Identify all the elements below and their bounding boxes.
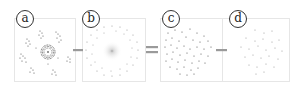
panel-a-clusters xyxy=(19,30,70,75)
panel-c-points xyxy=(164,28,211,75)
figure-points xyxy=(0,0,301,85)
minus-operator-ab xyxy=(73,49,83,51)
panel-c-label: c xyxy=(162,10,180,28)
minus-operator-cd xyxy=(216,49,227,51)
equals-operator-bc xyxy=(146,46,158,53)
panel-d-points xyxy=(240,29,282,74)
panel-b-label: b xyxy=(82,10,100,28)
panel-d-label: d xyxy=(229,10,247,28)
panel-a-label: a xyxy=(16,10,34,28)
